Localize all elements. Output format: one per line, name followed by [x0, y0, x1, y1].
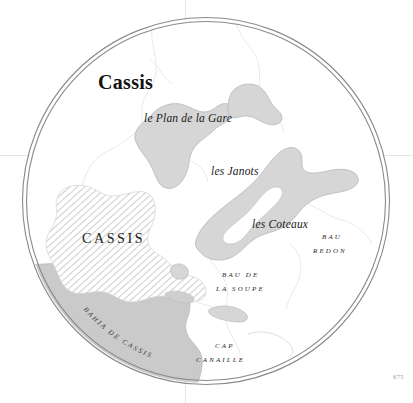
map-canvas: BAHIA DE CASSIS Cassis le Plan de la Gar…: [0, 0, 413, 403]
island-small-centre: [170, 264, 188, 279]
map-illustration: BAHIA DE CASSIS: [0, 0, 413, 403]
